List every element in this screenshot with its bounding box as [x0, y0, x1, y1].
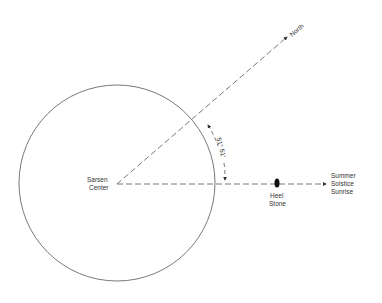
angle-arc-upper	[208, 125, 218, 146]
stonehenge-alignment-diagram: Sarsen Center North Heel Stone Summer So…	[0, 0, 382, 303]
north-label: North	[288, 22, 305, 38]
angle-label: 51° 51′	[215, 137, 227, 159]
sunrise-label-line2: Solstice	[331, 180, 354, 187]
sunrise-label-line1: Summer	[331, 172, 356, 179]
center-label-line2: Center	[89, 184, 109, 191]
sarsen-circle	[19, 85, 215, 281]
angle-arc-lower	[224, 163, 225, 180]
sunrise-label-line3: Sunrise	[331, 188, 353, 195]
heel-stone-marker	[275, 179, 280, 188]
heel-stone-label-line2: Stone	[269, 200, 286, 207]
heel-stone-label-line1: Heel	[270, 192, 284, 199]
center-label-line1: Sarsen	[87, 176, 108, 183]
north-line	[117, 37, 287, 184]
